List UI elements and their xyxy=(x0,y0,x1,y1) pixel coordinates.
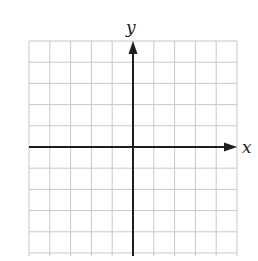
y-axis-label: y xyxy=(125,17,136,37)
x-axis-label: x xyxy=(242,137,252,157)
coordinate-plane: x y xyxy=(0,0,258,261)
y-axis-arrow-icon xyxy=(129,41,138,54)
x-axis-arrow-icon xyxy=(224,143,237,152)
